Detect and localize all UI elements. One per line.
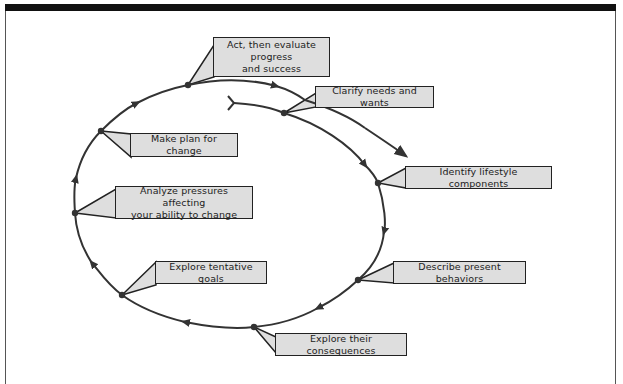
step-text: Clarify needs and wants xyxy=(320,85,429,109)
step-text-line-1: Act, then evaluate progress xyxy=(227,39,316,62)
node-analyze xyxy=(72,210,78,216)
step-label-act: Act, then evaluate progress and success xyxy=(213,37,330,77)
node-goals xyxy=(119,292,125,298)
pointer-describe xyxy=(358,263,394,283)
step-label-analyze: Analyze pressures affecting your ability… xyxy=(115,186,253,219)
step-label-plan: Make plan for change xyxy=(130,133,238,157)
step-text: Explore tentative goals xyxy=(160,261,262,285)
step-label-identify: Identify lifestyle components xyxy=(405,166,552,189)
node-describe xyxy=(355,277,361,283)
node-identify xyxy=(375,180,381,186)
node-consequences xyxy=(251,324,257,330)
step-label-clarify: Clarify needs and wants xyxy=(315,86,434,108)
step-text-line-2: and success xyxy=(242,63,301,74)
node-act xyxy=(185,82,191,88)
step-label-goals: Explore tentative goals xyxy=(155,261,267,284)
pointer-identify xyxy=(378,168,406,188)
step-text: Analyze pressures affecting your ability… xyxy=(120,185,248,221)
start-tail xyxy=(228,96,234,110)
step-text-line-2: your ability to change xyxy=(131,209,237,220)
step-text: Describe present behaviors xyxy=(398,261,521,285)
step-text: Identify lifestyle components xyxy=(410,166,547,190)
pointer-consequences xyxy=(254,327,276,353)
node-clarify xyxy=(281,110,287,116)
pointer-plan xyxy=(101,131,131,157)
node-plan xyxy=(98,128,104,134)
step-label-describe: Describe present behaviors xyxy=(393,261,526,284)
pointer-act xyxy=(188,45,214,85)
step-text-line-1: Analyze pressures affecting xyxy=(140,185,228,208)
pointer-analyze xyxy=(75,189,116,218)
step-label-consequences: Explore their consequences xyxy=(275,333,407,356)
step-text: Make plan for change xyxy=(135,133,233,157)
step-text: Explore their consequences xyxy=(280,333,402,357)
step-text: Act, then evaluate progress and success xyxy=(218,39,325,75)
pointer-goals xyxy=(122,262,156,295)
